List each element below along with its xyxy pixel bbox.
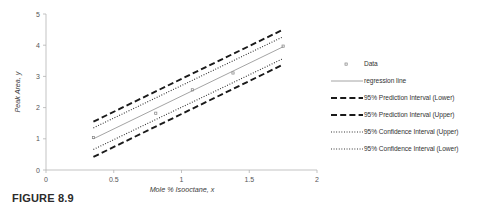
legend-item[interactable]: 95% Confidence Interval (Upper) (330, 123, 482, 140)
legend-item[interactable]: 95% Confidence Interval (Lower) (330, 140, 482, 157)
legend-item-label: Data (364, 60, 378, 67)
x-tick-label: 0 (44, 176, 48, 183)
series-dashed (93, 65, 283, 157)
legend-key-dotted-line (330, 143, 364, 155)
legend-item-label: regression line (364, 77, 406, 84)
legend-marker (345, 63, 347, 65)
data-point (232, 72, 234, 74)
legend-key-solid-line (330, 75, 364, 87)
series-solid (93, 47, 283, 139)
data-points-group (92, 45, 284, 139)
legend-item[interactable]: 95% Prediction Interval (Upper) (330, 106, 482, 123)
legend-key-dashed-line (330, 109, 364, 121)
legend-key-dashed-line (330, 92, 364, 104)
y-tick-label: 3 (36, 73, 40, 80)
x-axis-ticks: 00.511.52 (44, 170, 319, 183)
y-tick-label: 0 (36, 167, 40, 174)
y-tick-label: 1 (36, 135, 40, 142)
series-dashed (93, 30, 283, 122)
legend-item[interactable]: regression line (330, 72, 482, 89)
data-series-group (93, 30, 283, 157)
legend-item-label: 95% Prediction Interval (Upper) (364, 111, 454, 118)
y-tick-label: 2 (36, 104, 40, 111)
x-tick-label: 1 (180, 176, 184, 183)
legend-key-dotted-line (330, 126, 364, 138)
data-point (92, 136, 94, 138)
x-tick-label: 1.5 (244, 176, 254, 183)
series-dotted (93, 59, 283, 150)
legend-key-marker-dot (330, 58, 364, 70)
y-axis-ticks: 012345 (36, 11, 46, 174)
data-point (282, 45, 284, 47)
x-tick-label: 2 (315, 176, 319, 183)
chart-legend: Dataregression line95% Prediction Interv… (330, 55, 482, 157)
legend-item[interactable]: Data (330, 55, 482, 72)
series-dotted (93, 37, 283, 128)
plot-frame (46, 14, 317, 170)
x-tick-label: 0.5 (109, 176, 119, 183)
y-tick-label: 4 (36, 42, 40, 49)
x-axis-title: Mole % Isooctane, x (150, 185, 215, 194)
legend-item-label: 95% Confidence Interval (Lower) (364, 145, 458, 152)
legend-item-label: 95% Confidence Interval (Upper) (364, 128, 458, 135)
legend-item[interactable]: 95% Prediction Interval (Lower) (330, 89, 482, 106)
figure-container: 012345 00.511.52 Peak Area, y Mole % Iso… (0, 0, 483, 216)
y-tick-label: 5 (36, 11, 40, 18)
figure-caption: FIGURE 8.9 (12, 192, 74, 204)
data-point (155, 112, 157, 114)
y-axis-title: Peak Area, y (13, 71, 22, 112)
data-point (191, 89, 193, 91)
legend-item-label: 95% Prediction Interval (Lower) (364, 94, 454, 101)
